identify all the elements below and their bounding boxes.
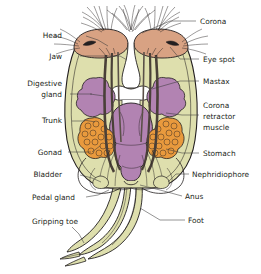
label-corona: Corona	[200, 17, 226, 26]
label-gonad: Gonad	[38, 148, 62, 157]
label-anus: Anus	[185, 192, 203, 201]
label-foot: Foot	[188, 216, 204, 225]
label-corona-retractor-line1: Corona	[203, 101, 229, 110]
label-corona-retractor-line2: retractor	[203, 112, 236, 121]
label-trunk: Trunk	[41, 116, 63, 125]
label-pedal-gland: Pedal gland	[32, 193, 75, 202]
label-corona-retractor-line3: muscle	[203, 123, 230, 132]
label-gripping-toe: Gripping toe	[32, 217, 78, 226]
label-nephridiophore: Nephridiophore	[192, 170, 250, 179]
label-digestive-gland-line1: Digestive	[27, 79, 62, 88]
anatomy-illustration: Head Jaw Digestive gland Trunk Gonad Bla…	[0, 0, 261, 274]
label-mastax: Mastax	[203, 77, 230, 86]
label-jaw: Jaw	[48, 52, 62, 61]
rotifer-anatomy-diagram: Head Jaw Digestive gland Trunk Gonad Bla…	[0, 0, 261, 274]
label-head: Head	[43, 31, 63, 40]
label-stomach: Stomach	[203, 149, 236, 158]
label-eye-spot: Eye spot	[203, 55, 235, 64]
label-bladder: Bladder	[33, 170, 63, 179]
label-digestive-gland-line2: gland	[41, 90, 62, 99]
